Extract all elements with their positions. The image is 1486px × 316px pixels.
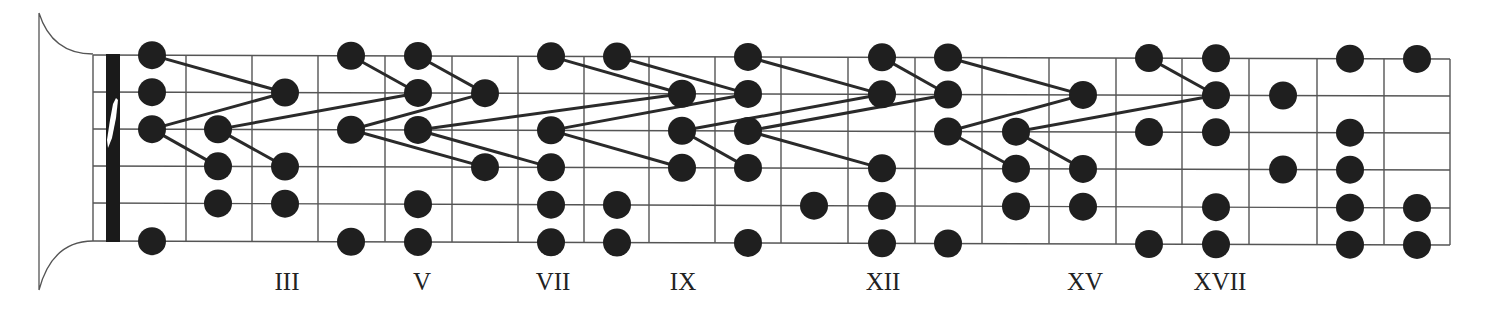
note-dot (868, 154, 896, 182)
note-dot (537, 116, 565, 144)
note-dot (204, 189, 232, 217)
note-dot (1336, 45, 1364, 73)
note-dot (868, 192, 896, 220)
note-dot (603, 43, 631, 71)
fret-label: XV (1067, 268, 1103, 296)
note-dot (1202, 193, 1230, 221)
note-dot (1202, 230, 1230, 258)
note-dot (1202, 44, 1230, 72)
note-dot (734, 229, 762, 257)
note-dot (1002, 192, 1030, 220)
connector-line (551, 130, 682, 167)
note-dot (734, 43, 762, 71)
headstock-outline (39, 13, 93, 290)
string-6 (93, 241, 1450, 245)
note-dot (668, 80, 696, 108)
note-dot (868, 80, 896, 108)
note-dot (138, 78, 166, 106)
note-dot (1269, 82, 1297, 110)
note-dot (1403, 231, 1431, 259)
fretboard-diagram (0, 0, 1486, 316)
note-dot (471, 153, 499, 181)
string-1 (93, 55, 1450, 59)
note-dot (1069, 81, 1097, 109)
note-dot (1069, 155, 1097, 183)
note-dot (1336, 119, 1364, 147)
note-dot (1135, 118, 1163, 146)
note-dots (138, 41, 1431, 259)
fret-label: V (413, 268, 431, 296)
note-dot (934, 118, 962, 146)
note-dot (337, 228, 365, 256)
note-dot (734, 117, 762, 145)
note-dot (1202, 118, 1230, 146)
note-dot (1069, 193, 1097, 221)
note-dot (868, 229, 896, 257)
note-dot (204, 152, 232, 180)
note-dot (337, 116, 365, 144)
connector-line (748, 57, 882, 94)
frets (93, 55, 1450, 245)
note-dot (271, 153, 299, 181)
note-dot (1002, 118, 1030, 146)
nut (106, 54, 120, 242)
note-dot (337, 42, 365, 70)
note-dot (471, 79, 499, 107)
strings (93, 55, 1450, 245)
connector-line (948, 58, 1083, 95)
string-3 (93, 129, 1450, 133)
note-dot (1202, 81, 1230, 109)
note-dot (1135, 44, 1163, 72)
note-dot (404, 116, 432, 144)
note-dot (1403, 45, 1431, 73)
fret-label: VII (536, 268, 571, 296)
note-dot (800, 192, 828, 220)
note-dot (1403, 194, 1431, 222)
note-dot (668, 117, 696, 145)
note-dot (603, 229, 631, 257)
connector-line (748, 131, 882, 168)
fret-label: XII (866, 268, 901, 296)
note-dot (734, 154, 762, 182)
fret-label: IX (670, 268, 696, 296)
note-dot (734, 80, 762, 108)
note-dot (404, 42, 432, 70)
note-dot (404, 79, 432, 107)
headstock (39, 13, 93, 290)
note-dot (271, 79, 299, 107)
note-dot (271, 190, 299, 218)
note-dot (138, 115, 166, 143)
note-dot (603, 191, 631, 219)
fret-label: XVII (1194, 268, 1247, 296)
note-dot (537, 42, 565, 70)
nut-bar (106, 54, 120, 242)
note-dot (138, 227, 166, 255)
scale-connectors (152, 55, 1216, 169)
note-dot (1336, 231, 1364, 259)
note-dot (537, 228, 565, 256)
note-dot (1336, 194, 1364, 222)
note-dot (1002, 155, 1030, 183)
note-dot (537, 153, 565, 181)
note-dot (138, 41, 166, 69)
note-dot (1269, 156, 1297, 184)
note-dot (204, 115, 232, 143)
note-dot (934, 230, 962, 258)
note-dot (1336, 156, 1364, 184)
note-dot (934, 44, 962, 72)
fret-label: III (275, 268, 300, 296)
note-dot (668, 154, 696, 182)
note-dot (404, 190, 432, 218)
note-dot (934, 81, 962, 109)
note-dot (1135, 230, 1163, 258)
note-dot (868, 43, 896, 71)
note-dot (537, 191, 565, 219)
note-dot (404, 228, 432, 256)
connector-line (152, 55, 285, 92)
